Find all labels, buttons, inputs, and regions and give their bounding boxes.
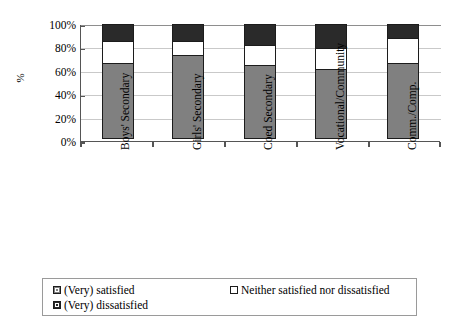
legend-item-neither: Neither satisfied nor dissatisfied <box>230 284 390 296</box>
y-tick-label: 40% <box>32 90 76 101</box>
legend-label: Neither satisfied nor dissatisfied <box>241 284 390 296</box>
legend-label: (Very) dissatisfied <box>64 299 148 311</box>
x-tick-mark <box>439 142 441 147</box>
x-tick-mark <box>224 142 226 147</box>
y-tick-label: 60% <box>32 66 76 77</box>
x-tick-mark <box>368 142 370 147</box>
x-tick-mark <box>80 142 82 147</box>
y-axis-title: % <box>14 68 26 88</box>
legend-item-dissatisfied: (Very) dissatisfied <box>53 299 148 311</box>
x-axis-label-girls-secondary: Girls' Secondary <box>191 30 203 150</box>
y-tick-label: 100% <box>32 20 76 31</box>
x-axis-label-boys-secondary: Boys' Secondary <box>119 30 131 150</box>
gray-swatch-icon <box>53 286 61 294</box>
x-axis-label-coed-secondary: Coed Secondary <box>262 30 274 150</box>
black-swatch-icon <box>53 301 61 309</box>
white-swatch-icon <box>230 286 238 294</box>
y-tick-label: 20% <box>32 113 76 124</box>
x-axis-label-vocational-community: Vocational/Community <box>334 30 346 150</box>
y-axis-tick-labels: 100% 80% 60% 40% 20% 0% <box>28 25 76 142</box>
y-tick-label: 0% <box>32 137 76 148</box>
plot-area <box>80 25 440 142</box>
x-axis-label-comm-comp: Comm./Comp. <box>406 30 418 150</box>
chart-legend: (Very) satisfied Neither satisfied nor d… <box>42 278 417 316</box>
x-tick-mark <box>152 142 154 147</box>
x-tick-mark <box>296 142 298 147</box>
y-tick-label: 80% <box>32 43 76 54</box>
legend-label: (Very) satisfied <box>64 284 135 296</box>
legend-item-satisfied: (Very) satisfied <box>53 284 135 296</box>
stacked-bar-chart: % 100% 80% 60% 40% 20% 0% Boys' Secondar… <box>0 0 459 324</box>
